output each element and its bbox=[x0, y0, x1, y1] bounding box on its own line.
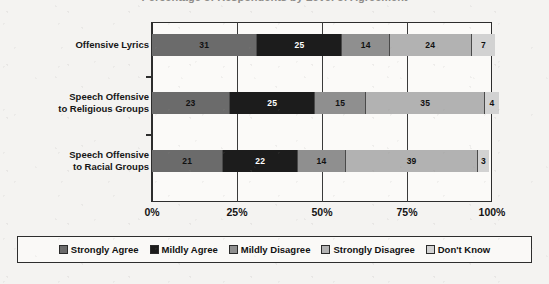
legend-swatch-icon bbox=[229, 245, 238, 254]
category-label-line: Speech Offensive bbox=[15, 149, 149, 162]
bar-segment: 23 bbox=[152, 92, 230, 114]
bar-segment: 31 bbox=[152, 34, 257, 56]
category-label-line: to Religious Groups bbox=[15, 103, 149, 116]
legend-label: Don't Know bbox=[438, 244, 490, 255]
legend-swatch-icon bbox=[321, 245, 330, 254]
legend-swatch-icon bbox=[426, 245, 435, 254]
x-axis-tick-label: 100% bbox=[465, 206, 519, 218]
legend-label: Strongly Agree bbox=[71, 244, 139, 255]
bar-segment: 25 bbox=[230, 92, 315, 114]
bar-segment: 7 bbox=[472, 34, 496, 56]
bar-segment: 3 bbox=[478, 150, 488, 172]
y-axis-tick bbox=[146, 134, 152, 136]
legend-label: Strongly Disagree bbox=[333, 244, 414, 255]
bar-segment: 39 bbox=[346, 150, 479, 172]
x-axis-tick-label: 75% bbox=[380, 206, 434, 218]
legend-item[interactable]: Strongly Disagree bbox=[321, 244, 414, 255]
x-axis-tick-label: 25% bbox=[210, 206, 264, 218]
bar-segment: 21 bbox=[152, 150, 223, 172]
bar-row: 312514247 bbox=[152, 34, 492, 56]
x-axis-tick-label: 0% bbox=[125, 206, 179, 218]
bar-segment: 14 bbox=[342, 34, 390, 56]
x-axis-tick-label: 50% bbox=[295, 206, 349, 218]
category-label-line: Offensive Lyrics bbox=[15, 39, 149, 52]
category-label: Offensive Lyrics bbox=[15, 39, 149, 52]
legend-swatch-icon bbox=[150, 245, 159, 254]
category-label-line: to Racial Groups bbox=[15, 161, 149, 174]
legend-label: Mildly Agree bbox=[162, 244, 218, 255]
bar-segment: 24 bbox=[390, 34, 472, 56]
category-label: Speech Offensiveto Religious Groups bbox=[15, 91, 149, 116]
legend-item[interactable]: Mildly Agree bbox=[150, 244, 218, 255]
y-axis-tick bbox=[146, 76, 152, 78]
legend-label: Mildly Disagree bbox=[241, 244, 311, 255]
bar-row: 232515354 bbox=[152, 92, 492, 114]
category-label-line: Speech Offensive bbox=[15, 91, 149, 104]
legend-item[interactable]: Mildly Disagree bbox=[229, 244, 311, 255]
legend-item[interactable]: Strongly Agree bbox=[59, 244, 139, 255]
legend-item[interactable]: Don't Know bbox=[426, 244, 490, 255]
bar-segment: 4 bbox=[485, 92, 499, 114]
chart-legend: Strongly AgreeMildly AgreeMildly Disagre… bbox=[17, 236, 532, 263]
bar-segment: 14 bbox=[298, 150, 346, 172]
bar-segment: 22 bbox=[223, 150, 298, 172]
bar-segment: 25 bbox=[257, 34, 342, 56]
bar-segment: 15 bbox=[315, 92, 366, 114]
bar-segment: 35 bbox=[366, 92, 485, 114]
bar-row: 212214393 bbox=[152, 150, 492, 172]
legend-swatch-icon bbox=[59, 245, 68, 254]
category-label: Speech Offensiveto Racial Groups bbox=[15, 149, 149, 174]
